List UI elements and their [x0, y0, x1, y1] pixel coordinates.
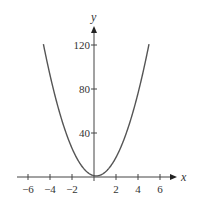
curve: [43, 44, 149, 176]
x-tick-label: 6: [157, 183, 163, 195]
parabola-chart: xy−6−4−22464080120: [0, 0, 197, 204]
x-tick-label: −4: [44, 183, 56, 195]
x-tick-label: −2: [66, 183, 78, 195]
y-tick-label: 120: [74, 39, 91, 51]
x-axis-arrow-icon: [170, 174, 177, 180]
y-tick-label: 80: [79, 83, 91, 95]
parabola-series: [43, 44, 149, 176]
x-tick-label: −6: [22, 183, 34, 195]
x-axis-label: x: [180, 170, 187, 184]
y-axis-arrow-icon: [91, 26, 97, 33]
x-tick-label: 2: [113, 183, 119, 195]
axes: xy−6−4−22464080120: [17, 10, 187, 195]
y-tick-label: 40: [79, 127, 91, 139]
y-axis-label: y: [90, 10, 97, 24]
x-tick-label: 4: [135, 183, 141, 195]
